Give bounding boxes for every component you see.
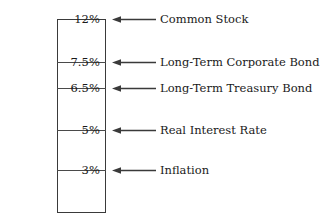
tick-label-3: 3% xyxy=(40,165,100,177)
tick-label-12: 12% xyxy=(40,14,100,26)
left-arrow-icon xyxy=(112,166,156,175)
tick-label-5: 5% xyxy=(40,125,100,137)
tick-label-7-5: 7.5% xyxy=(40,57,100,69)
scale-bar-outline xyxy=(57,19,106,213)
series-label-real-interest-rate: Real Interest Rate xyxy=(160,125,267,137)
series-label-common-stock: Common Stock xyxy=(160,14,248,26)
series-label-long-term-corporate-bond: Long-Term Corporate Bond xyxy=(160,57,320,69)
left-arrow-icon xyxy=(112,126,156,135)
left-arrow-icon xyxy=(112,58,156,67)
risk-premium-scale-diagram: 12% Common Stock 7.5% Long-Term Corporat… xyxy=(0,0,335,222)
left-arrow-icon xyxy=(112,84,156,93)
series-label-long-term-treasury-bond: Long-Term Treasury Bond xyxy=(160,83,312,95)
tick-label-6-5: 6.5% xyxy=(40,83,100,95)
series-label-inflation: Inflation xyxy=(160,165,209,177)
left-arrow-icon xyxy=(112,15,156,24)
